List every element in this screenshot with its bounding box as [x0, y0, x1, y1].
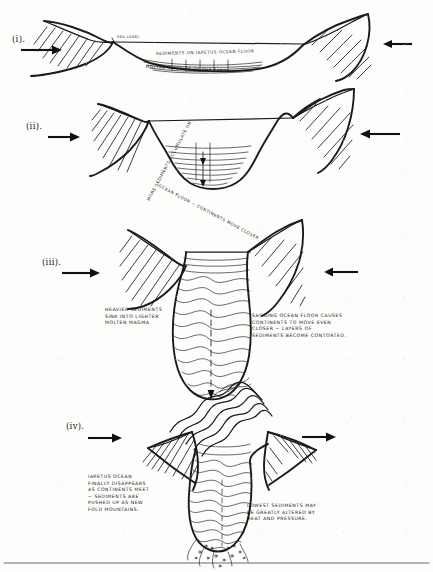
panel-label-iii: (iii).	[42, 257, 61, 267]
right-continent-hatch-iii	[255, 237, 305, 306]
panel-iv-drawing	[88, 378, 336, 568]
contorted-layers-iii	[174, 258, 250, 397]
panel-ii-left-arrow	[48, 133, 80, 142]
panel-label-i: (i).	[12, 34, 25, 44]
sea-level-line-i	[113, 42, 303, 44]
fold-mountain-crest	[170, 382, 272, 456]
panel-label-ii: (ii).	[26, 121, 42, 131]
sediment-layers-ii	[166, 146, 251, 185]
panel-i-right-arrow	[383, 40, 412, 48]
sea-level-line-ii	[149, 118, 293, 121]
panel-ii-drawing	[48, 89, 400, 189]
sea-level-label: SEA LEVEL	[117, 35, 140, 40]
panel-iv-right-arrow	[302, 433, 336, 442]
right-continent-hatch-iv	[266, 436, 316, 481]
note-lowest-sediments: LOWEST SEDIMENTS MAY BE GREATLY ALTERED …	[247, 503, 316, 523]
sinking-arrow-ii	[200, 152, 206, 187]
right-continent-hatch-i	[312, 28, 371, 79]
scanned-page: (i). (ii). (iii). (iv). SEA LEVEL SEDIME…	[0, 0, 433, 572]
panel-label-iv: (iv).	[66, 421, 84, 431]
panel-iii-left-arrow	[62, 269, 100, 278]
note-sagging-ocean-floor: SAGGING OCEAN FLOOR CAUSES CONTINENTS TO…	[252, 313, 347, 339]
left-continent-hatch-iii	[120, 236, 180, 306]
note-iapetus-disappears: IAPETUS OCEAN FINALLY DISAPPEARS AS CONT…	[88, 474, 149, 513]
sinking-arrow-iii	[208, 310, 215, 399]
altered-rock-stipple	[187, 540, 248, 568]
left-continent-hatch-i	[34, 27, 103, 68]
panel-iii-right-arrow	[324, 268, 358, 277]
note-heavier-sediments: HEAVIER SEDIMENTS SINK INTO LIGHTER MOLT…	[105, 307, 162, 327]
diagram-canvas	[0, 0, 433, 572]
panel-iv-left-arrow	[88, 434, 122, 443]
panel-ii-right-arrow	[360, 130, 400, 139]
